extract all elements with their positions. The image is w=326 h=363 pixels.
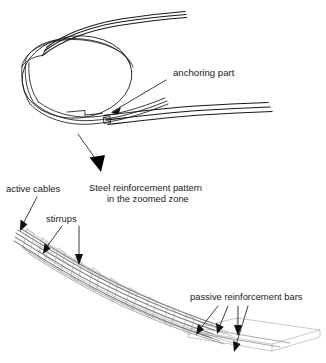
stirrups-label: stirrups	[46, 213, 77, 224]
active-cables-label: active cables	[6, 183, 61, 194]
technical-diagram: anchoring part Steel reinforcement patte…	[0, 0, 326, 363]
zoom-caption-line1: Steel reinforcement pattern	[89, 182, 202, 193]
anchoring-part-label: anchoring part	[173, 67, 235, 78]
zoom-caption-line2: in the zoomed zone	[107, 193, 189, 204]
passive-reinforcement-bars-label: passive reinforcement bars	[190, 291, 303, 302]
